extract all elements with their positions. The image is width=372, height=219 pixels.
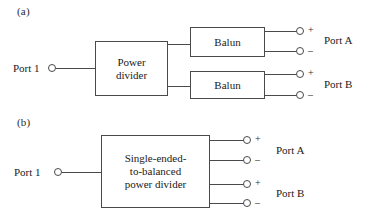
panel-a-balun-top-block: Balun: [190, 27, 265, 57]
panel-a-port-a-plus-wire: [265, 31, 298, 32]
panel-b-input-wire: [62, 172, 101, 173]
panel-a-balun-bottom-block: Balun: [190, 71, 265, 99]
panel-a-power-divider-block: Power divider: [95, 41, 168, 96]
panel-b-port-b-plus-wire: [210, 184, 246, 185]
panel-b-port-b-plus-terminal: [243, 180, 251, 188]
panel-a-port-a-minus-terminal: [296, 47, 304, 55]
panel-a-balun-top-text: Balun: [212, 36, 242, 49]
panel-a-port-a-plus-sign: +: [308, 25, 314, 35]
panel-b-port-a-plus-wire: [210, 140, 246, 141]
panel-a-port-b-minus-wire: [265, 95, 298, 96]
panel-b-power-divider-text: Single-ended- to-balanced power divider: [123, 152, 189, 191]
panel-a-wire-divider-to-balun-top: [168, 44, 190, 45]
panel-b-port-b-plus-sign: +: [255, 178, 261, 188]
panel-b-port-b-minus-wire: [210, 203, 246, 204]
panel-b-port-b-minus-sign: –: [255, 198, 260, 208]
panel-a-port-b-plus-terminal: [296, 70, 304, 78]
panel-b-port-a-minus-sign: –: [255, 155, 260, 165]
panel-b-power-divider-block: Single-ended- to-balanced power divider: [101, 135, 210, 208]
panel-a-port-a-label: Port A: [324, 35, 352, 46]
panel-b-port-a-plus-sign: +: [255, 134, 261, 144]
panel-b-port-a-label: Port A: [276, 145, 304, 156]
panel-b-label: (b): [17, 117, 30, 128]
panel-b-port-a-minus-wire: [210, 160, 246, 161]
panel-b-port-b-label: Port B: [276, 188, 304, 199]
panel-a-wire-divider-to-balun-bottom: [168, 86, 190, 87]
panel-b-port1-label: Port 1: [14, 167, 41, 178]
panel-a-port1-terminal: [48, 64, 56, 72]
panel-a-port-a-minus-wire: [265, 51, 298, 52]
panel-a-port-b-label: Port B: [324, 79, 352, 90]
panel-b-port-a-minus-terminal: [243, 156, 251, 164]
panel-a-port1-label: Port 1: [13, 63, 40, 74]
panel-b-port-b-minus-terminal: [243, 199, 251, 207]
panel-a-port-b-minus-sign: –: [308, 90, 313, 100]
panel-b-port1-terminal: [54, 168, 62, 176]
panel-b-port-a-plus-terminal: [243, 136, 251, 144]
panel-a-port-a-minus-sign: –: [308, 46, 313, 56]
figure-root: (a) Port 1 Power divider Balun Balun + –…: [0, 0, 372, 219]
panel-a-input-wire: [56, 68, 95, 69]
panel-a-label: (a): [17, 6, 30, 17]
panel-a-port-b-plus-sign: +: [308, 68, 314, 78]
panel-a-port-b-plus-wire: [265, 74, 298, 75]
panel-a-port-b-minus-terminal: [296, 91, 304, 99]
panel-a-balun-bottom-text: Balun: [212, 79, 242, 92]
panel-a-port-a-plus-terminal: [296, 27, 304, 35]
panel-a-power-divider-text: Power divider: [114, 56, 149, 82]
